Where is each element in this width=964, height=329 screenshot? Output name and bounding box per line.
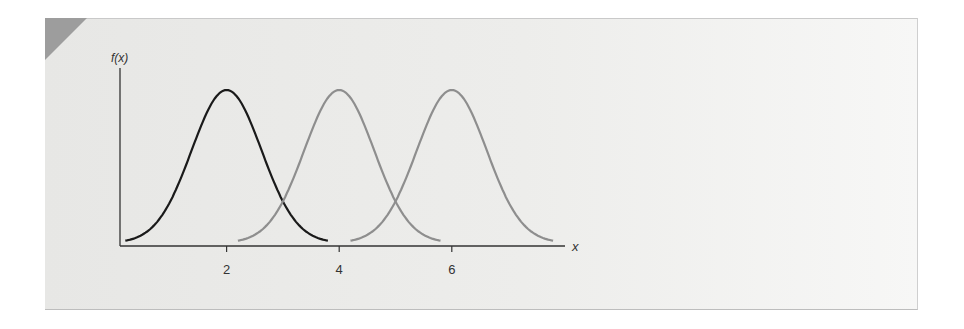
x-tick-label: 4 bbox=[336, 262, 343, 277]
x-tick-label: 2 bbox=[223, 262, 230, 277]
chart: 246 f(x) x bbox=[0, 0, 964, 329]
curves bbox=[125, 90, 553, 241]
x-axis-label: x bbox=[571, 239, 579, 254]
x-ticks: 246 bbox=[223, 246, 455, 277]
axes bbox=[120, 68, 565, 246]
y-axis-label: f(x) bbox=[111, 51, 128, 65]
x-tick-label: 6 bbox=[448, 262, 455, 277]
